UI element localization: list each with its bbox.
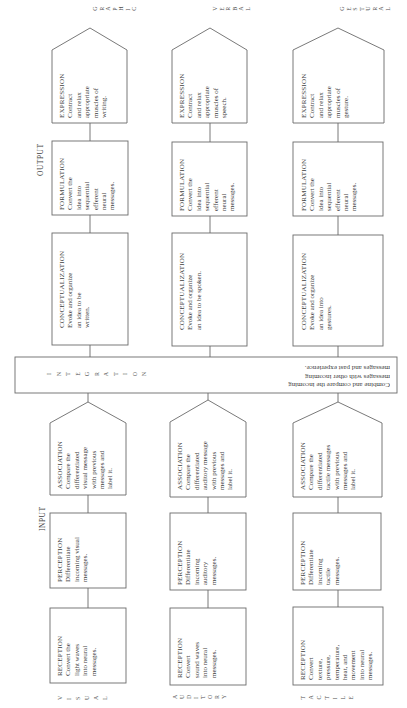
integration-description: Combine and compare the incoming message…: [288, 364, 390, 389]
box-description: Compare the differentiated auditory mess…: [184, 441, 234, 490]
box-description: Contract and relax appropriate muscles o…: [308, 86, 350, 118]
letter: N: [55, 369, 61, 379]
perception-text-tactile: PERCEPTION Differentiate incoming tactil…: [299, 541, 341, 585]
letter: R: [93, 369, 99, 379]
box-description: Evoke and organize an idea to be spoken.: [186, 271, 202, 330]
box-title: FORMULATION: [300, 159, 308, 211]
box-title: ASSOCIATION: [176, 442, 184, 490]
letter: L: [244, 4, 251, 11]
box-description: Contract and relax appropriate muscles o…: [186, 86, 228, 118]
input-label: INPUT: [38, 506, 47, 531]
letter: T: [112, 369, 118, 379]
box-title: FORMULATION: [58, 158, 66, 210]
box-description: Convert the light waves into neural mess…: [64, 643, 97, 676]
label-verbal: V E R B A L: [212, 4, 251, 11]
formulation-text-verbal: FORMULATION Convert the idea into sequen…: [178, 159, 237, 211]
label-visual: V I S U A L: [56, 692, 110, 699]
integration-title: I N T E G R A T I O N: [44, 371, 149, 377]
letter: C: [131, 4, 138, 11]
letter: I: [46, 369, 52, 379]
expression-text-graphic: EXPRESSION Contract and relax appropriat…: [58, 74, 108, 118]
box-description: Convert the idea into sequential efferen…: [308, 178, 358, 211]
letter: T: [65, 369, 71, 379]
letter: I: [122, 369, 128, 379]
letter: T: [300, 692, 307, 700]
box-description: Convert texture, pressure, temperature, …: [307, 645, 374, 680]
box-title: PERCEPTION: [299, 541, 307, 585]
box-title: RECEPTION: [299, 640, 307, 680]
letter: S: [75, 691, 82, 700]
expression-text-gestural: EXPRESSION Contract and relax appropriat…: [300, 74, 350, 118]
box-title: FORMULATION: [178, 159, 186, 211]
box-description: Evoke and organize an idea to be written…: [66, 273, 91, 328]
box-title: EXPRESSION: [58, 74, 66, 118]
letter: L: [340, 692, 347, 700]
box-title: ASSOCIATION: [56, 441, 64, 489]
association-text-tactile: ASSOCIATION Compare the differentiated t…: [299, 442, 358, 490]
letter: V: [57, 691, 64, 700]
letter: Y: [221, 692, 228, 699]
letter: N: [141, 369, 147, 379]
perception-text-auditory: PERCEPTION Differentiate incoming audito…: [176, 541, 218, 585]
label-auditory: A U D I T O R Y: [172, 692, 228, 699]
label-tactile: T A C T I L E: [300, 692, 356, 699]
box-title: PERCEPTION: [176, 541, 184, 585]
reception-text-auditory: RECEPTION Convert sound waves into neura…: [176, 638, 218, 678]
letter: I: [332, 692, 339, 700]
formulation-text-gestural: FORMULATION Convert the idea into sequen…: [300, 159, 359, 211]
box-description: Convert the idea into sequential efferen…: [66, 177, 116, 210]
reception-text-tactile: RECEPTION Convert texture, pressure, tem…: [299, 640, 375, 680]
box-title: ASSOCIATION: [299, 442, 307, 490]
box-title: EXPRESSION: [300, 74, 308, 118]
box-description: Convert sound waves into neural messages…: [184, 642, 217, 678]
box-description: Differentiate incoming tactile messages.: [307, 549, 340, 585]
letter: A: [308, 692, 315, 700]
label-gestural: G E S T U R A L: [339, 4, 391, 11]
conceptualization-text-gestural: CONCEPTUALIZATION Evoke and organize an …: [300, 253, 334, 330]
box-title: RECEPTION: [56, 636, 64, 676]
box-description: Compare the differentiated tactile messa…: [307, 445, 357, 490]
reception-text-visual: RECEPTION Convert the light waves into n…: [56, 636, 98, 676]
box-description: Differentiate incoming visual messages.: [64, 537, 89, 582]
box-description: Differentiate incoming auditory messages…: [184, 549, 217, 585]
letter: A: [93, 691, 100, 700]
letter: G: [84, 369, 90, 379]
letter: A: [103, 369, 109, 379]
letter: I: [66, 691, 73, 700]
association-text-visual: ASSOCIATION Compare the differentiated v…: [56, 441, 115, 489]
perception-text-visual: PERCEPTION Differentiate incoming visual…: [56, 537, 90, 582]
box-description: Compare the differentiated visual messag…: [64, 447, 114, 489]
letter: C: [316, 692, 323, 700]
box-description: Evoke and organize an idea into gestures…: [308, 275, 333, 330]
letter: L: [102, 691, 109, 700]
label-graphic: G R A P H I C: [92, 4, 138, 11]
letter: E: [74, 369, 80, 379]
conceptualization-text-graphic: CONCEPTUALIZATION Evoke and organize an …: [58, 251, 92, 328]
box-description: Convert the idea into sequential efferen…: [186, 178, 236, 211]
box-title: CONCEPTUALIZATION: [178, 253, 186, 330]
letter: O: [131, 369, 137, 379]
letter: L: [384, 4, 391, 11]
box-title: RECEPTION: [176, 638, 184, 678]
formulation-text-graphic: FORMULATION Convert the idea into sequen…: [58, 158, 117, 210]
box-title: CONCEPTUALIZATION: [300, 253, 308, 330]
output-label: OUTPUT: [36, 143, 45, 176]
box-description: Contract and relax appropriate muscles o…: [66, 86, 108, 118]
association-text-auditory: ASSOCIATION Compare the differentiated a…: [176, 441, 235, 490]
letter: E: [348, 692, 355, 700]
letter: U: [84, 691, 91, 700]
letter: T: [324, 692, 331, 700]
box-title: PERCEPTION: [56, 538, 64, 582]
box-title: CONCEPTUALIZATION: [58, 251, 66, 328]
box-title: EXPRESSION: [178, 74, 186, 118]
expression-text-verbal: EXPRESSION Contract and relax appropriat…: [178, 74, 228, 118]
conceptualization-text-verbal: CONCEPTUALIZATION Evoke and organize an …: [178, 253, 203, 330]
